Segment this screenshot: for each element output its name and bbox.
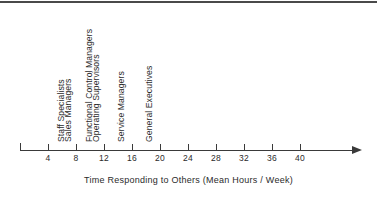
x-axis-tick (160, 144, 161, 150)
x-axis-tick (300, 144, 301, 150)
x-axis-tick (132, 144, 133, 150)
x-axis-arrow-icon (352, 146, 362, 154)
chart-figure: 481216202428323640 Staff SpecialistsSale… (0, 0, 377, 203)
x-axis-tick-label: 40 (287, 153, 313, 164)
x-axis-tick-label: 8 (63, 153, 89, 164)
x-axis-tick-label: 28 (203, 153, 229, 164)
x-axis-tick (104, 144, 105, 150)
x-axis-title: Time Responding to Others (Mean Hours / … (0, 175, 377, 185)
category-label: Service Managers (117, 71, 126, 142)
category-label: Sales Managers (64, 79, 73, 143)
x-axis-tick-label: 16 (119, 153, 145, 164)
x-axis-tick (48, 144, 49, 150)
x-axis-tick-label: 4 (35, 153, 61, 164)
x-axis-tick (188, 144, 189, 150)
category-label: General Executives (145, 66, 154, 142)
x-axis-tick (272, 144, 273, 150)
top-divider-rule (0, 1, 377, 3)
x-axis-origin-tick (20, 143, 21, 150)
x-axis-tick-label: 24 (175, 153, 201, 164)
x-axis-tick-label: 12 (91, 153, 117, 164)
x-axis-tick (76, 144, 77, 150)
x-axis-tick (244, 144, 245, 150)
x-axis-line (20, 150, 357, 151)
x-axis-tick-label: 36 (259, 153, 285, 164)
x-axis-tick (216, 144, 217, 150)
category-label: Operating Supervisors (92, 54, 101, 142)
x-axis-tick-label: 32 (231, 153, 257, 164)
x-axis-tick-label: 20 (147, 153, 173, 164)
